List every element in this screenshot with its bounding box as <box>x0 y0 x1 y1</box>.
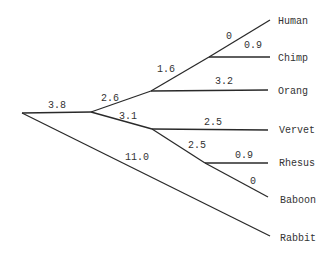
length-d-vervet: 2.5 <box>204 117 222 128</box>
taxon-human: Human <box>278 16 308 27</box>
taxon-baboon: Baboon <box>280 195 316 206</box>
taxon-chimp: Chimp <box>278 53 308 64</box>
length-root-a: 3.8 <box>48 100 66 111</box>
branch-b-orang <box>151 90 268 91</box>
length-a-d: 3.1 <box>119 111 137 122</box>
taxon-orang: Orang <box>278 86 308 97</box>
taxon-rhesus: Rhesus <box>279 158 315 169</box>
length-e-rhesus: 0.9 <box>235 150 253 161</box>
length-b-orang: 3.2 <box>215 76 233 87</box>
phylogenetic-tree: 3.8 2.6 1.6 0 0.9 3.2 3.1 2.5 2.5 0.9 0 … <box>0 0 329 253</box>
branch-d-vervet <box>152 129 268 130</box>
branch-root-rabbit <box>22 113 270 236</box>
length-c-human: 0 <box>226 31 232 42</box>
length-e-baboon: 0 <box>250 176 256 187</box>
length-a-b: 2.6 <box>101 93 119 104</box>
branch-c-human <box>209 20 270 57</box>
taxon-rabbit: Rabbit <box>280 233 316 244</box>
length-root-rabbit: 11.0 <box>125 152 149 163</box>
length-b-c: 1.6 <box>157 64 175 75</box>
length-c-chimp: 0.9 <box>244 40 262 51</box>
branch-root-a <box>22 112 91 113</box>
taxon-vervet: Vervet <box>279 125 315 136</box>
branch-e-baboon <box>205 163 268 197</box>
length-d-e: 2.5 <box>188 140 206 151</box>
branch-a-b <box>91 91 151 112</box>
